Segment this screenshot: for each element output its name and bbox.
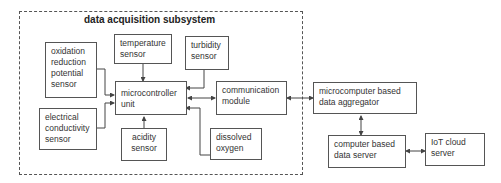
- node-iot-cloud-server: IoT cloud server: [425, 133, 485, 166]
- node-dissolved-oxygen: dissolved oxygen: [210, 128, 262, 160]
- node-orp-sensor: oxidation reduction potential sensor: [45, 42, 97, 98]
- node-microcontroller-unit: microcontroller unit: [115, 81, 187, 115]
- node-ec-sensor: electrical conductivity sensor: [39, 108, 97, 150]
- node-temperature-sensor: temperature sensor: [114, 34, 172, 64]
- node-data-aggregator: microcomputer based data aggregator: [313, 82, 417, 114]
- node-acidity-sensor: acidity sensor: [121, 128, 167, 161]
- node-turbidity-sensor: turbidity sensor: [185, 36, 229, 70]
- node-data-server: computer based data server: [328, 135, 406, 168]
- node-communication-module: communication module: [216, 81, 287, 115]
